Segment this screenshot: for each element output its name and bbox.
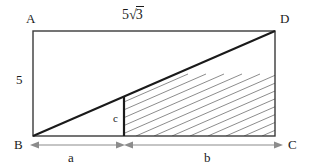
geometry-figure [0,0,309,166]
dimension-a [30,142,125,149]
height-label: 5 [16,73,23,86]
vertex-label-c: C [288,138,297,151]
radical-expression: 5√3 [122,8,144,22]
hatch-fill [46,74,309,136]
radicand: 3 [136,6,144,22]
vertex-label-b: B [14,138,23,151]
base-a-label: a [68,151,74,164]
segment-c-label: c [113,113,118,124]
vertex-label-a: A [26,12,35,25]
vertex-label-d: D [280,12,289,25]
top-length-label: 5√3 [122,8,144,22]
radical-coefficient: 5 [122,7,129,22]
base-b-label: b [204,151,211,164]
dimension-b [124,142,283,149]
